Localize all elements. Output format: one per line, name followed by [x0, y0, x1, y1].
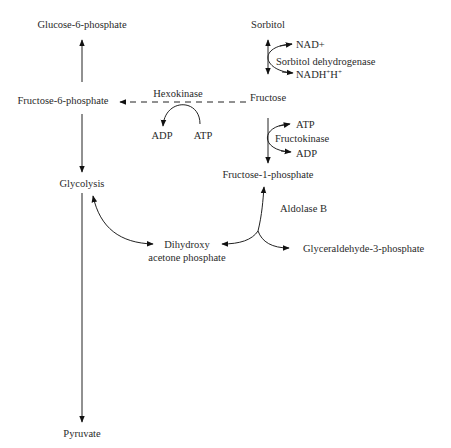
cofactor-nad: NAD+ — [296, 39, 325, 50]
node-glucose-6-phosphate: Glucose-6-phosphate — [37, 19, 127, 30]
node-dhap-line2: acetone phosphate — [148, 252, 226, 263]
fructose-metabolism-diagram: Glucose-6-phosphate Fructose-6-phosphate… — [0, 0, 451, 448]
cofactor-hexokinase-adp: ADP — [151, 130, 172, 141]
cofactor-fructokinase-atp: ATP — [296, 119, 315, 130]
cofactor-fructokinase-adp: ADP — [296, 148, 317, 159]
node-pyruvate: Pyruvate — [63, 428, 101, 439]
nadh-base: NADH — [296, 69, 327, 80]
cofactor-nadh: NADH+H+ — [296, 68, 342, 80]
arrow-nadh — [282, 72, 293, 73]
arrow-atp-to-adp-hexokinase — [163, 105, 200, 126]
arrow-to-g3p — [258, 231, 289, 248]
h-superscript: + — [338, 68, 342, 76]
node-glyceraldehyde-3-phosphate: Glyceraldehyde-3-phosphate — [303, 243, 425, 254]
enzyme-hexokinase: Hexokinase — [153, 88, 203, 99]
arrow-fk-adp — [281, 151, 291, 152]
node-dhap-line1: Dihydroxy — [164, 239, 210, 250]
node-sorbitol: Sorbitol — [251, 19, 285, 30]
arrow-to-f1p — [258, 187, 264, 231]
cofactor-hexokinase-atp: ATP — [194, 130, 213, 141]
node-fructose-1-phosphate: Fructose-1-phosphate — [223, 169, 314, 180]
enzyme-aldolase-b: Aldolase B — [280, 203, 327, 214]
node-fructose: Fructose — [250, 92, 287, 103]
node-glycolysis: Glycolysis — [60, 178, 105, 189]
enzyme-fructokinase: Fructokinase — [275, 133, 330, 144]
enzyme-sorbitol-dehydrogenase: Sorbitol dehydrogenase — [276, 56, 376, 67]
node-fructose-6-phosphate: Fructose-6-phosphate — [18, 95, 109, 106]
arrow-glycolysis-dhap — [93, 196, 153, 244]
arrow-to-dhap — [222, 231, 258, 244]
